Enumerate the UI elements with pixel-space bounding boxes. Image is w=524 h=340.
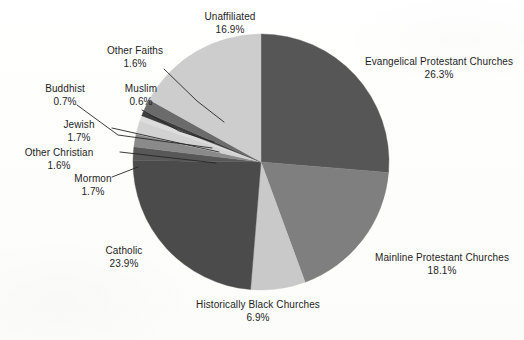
slice-label-name: Unaffiliated — [145, 10, 315, 23]
slice-label-catholic: Catholic 23.9% — [82, 244, 166, 270]
slice-label-name: Historically Black Churches — [168, 298, 348, 311]
slice-label-name: Catholic — [82, 244, 166, 257]
slice-label-percent: 1.6% — [75, 57, 195, 70]
slice-label-name: Muslim — [105, 82, 177, 95]
slice-label-name: Other Christian — [2, 146, 116, 159]
slice-label-historically-black-churches: Historically Black Churches 6.9% — [168, 298, 348, 324]
slice-label-percent: 23.9% — [82, 257, 166, 270]
slice-label-name: Mainline Protestant Churches — [362, 251, 522, 264]
slice-label-percent: 6.9% — [168, 311, 348, 324]
slice-label-mainline-protestant-churches: Mainline Protestant Churches 18.1% — [362, 251, 522, 277]
slice-label-mormon: Mormon 1.7% — [52, 172, 134, 198]
slice-label-name: Other Faiths — [75, 44, 195, 57]
slice-label-unaffiliated: Unaffiliated 16.9% — [145, 10, 315, 36]
pie-slice-group — [133, 34, 389, 290]
slice-label-percent: 0.6% — [105, 95, 177, 108]
slice-label-buddhist: Buddhist 0.7% — [22, 82, 108, 108]
slice-label-percent: 1.7% — [44, 131, 114, 144]
slice-label-evangelical-protestant-churches: Evangelical Protestant Churches 26.3% — [355, 55, 523, 81]
slice-label-percent: 1.6% — [2, 159, 116, 172]
slice-label-name: Buddhist — [22, 82, 108, 95]
slice-label-other-faiths: Other Faiths 1.6% — [75, 44, 195, 70]
slice-label-name: Jewish — [44, 118, 114, 131]
slice-label-name: Mormon — [52, 172, 134, 185]
slice-label-percent: 16.9% — [145, 23, 315, 36]
pie-chart-figure: Unaffiliated 16.9% Other Faiths 1.6% Bud… — [0, 0, 524, 340]
slice-label-name: Evangelical Protestant Churches — [355, 55, 523, 68]
slice-label-percent: 0.7% — [22, 95, 108, 108]
slice-label-other-christian: Other Christian 1.6% — [2, 146, 116, 172]
slice-label-percent: 18.1% — [362, 264, 522, 277]
slice-label-percent: 26.3% — [355, 68, 523, 81]
pie-slice — [133, 160, 261, 289]
slice-label-jewish: Jewish 1.7% — [44, 118, 114, 144]
slice-label-percent: 1.7% — [52, 185, 134, 198]
slice-label-muslim: Muslim 0.6% — [105, 82, 177, 108]
